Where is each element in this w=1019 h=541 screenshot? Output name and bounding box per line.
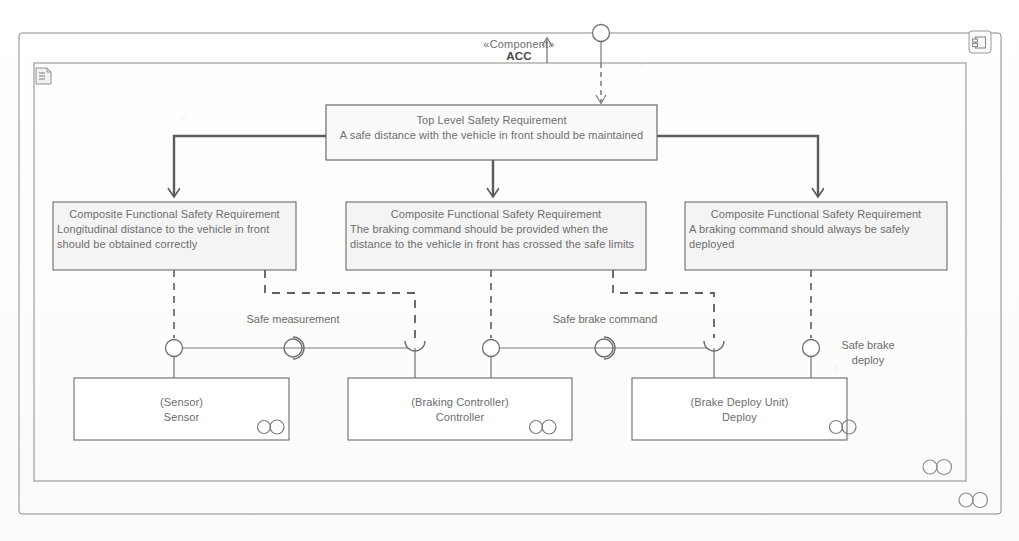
composite-requirement-1-line2: should be obtained correctly (57, 237, 292, 252)
composite-requirement-2-title: Composite Functional Safety Requirement (350, 207, 642, 222)
port-controller-required[interactable] (405, 341, 425, 378)
assembly-connector-safe-measurement (182, 337, 408, 359)
composite-requirement-3-title: Composite Functional Safety Requirement (689, 207, 943, 222)
part-controller-type: (Braking Controller) (348, 395, 572, 410)
component-icon-inner-bottom (923, 460, 952, 475)
composite-requirement-3-line1: A braking command should always be safel… (689, 222, 943, 237)
part-deploy-text: (Brake Deploy Unit) Deploy (632, 395, 847, 425)
derive-arrow-left (174, 136, 326, 196)
port-controller-provided[interactable] (483, 340, 500, 379)
diagram-vector-layer (0, 0, 1019, 541)
part-deploy-name: Deploy (632, 410, 847, 425)
interface-label-safe-brake-command: Safe brake command (525, 313, 685, 325)
top-requirement-body: A safe distance with the vehicle in fron… (326, 128, 657, 143)
part-sensor-text: (Sensor) Sensor (74, 395, 289, 425)
note-icon-inner-frame (36, 68, 51, 84)
trace-link-composite1-controller (265, 270, 415, 338)
composite-requirement-1-line1: Longitudinal distance to the vehicle in … (57, 222, 292, 237)
part-sensor-type: (Sensor) (74, 395, 289, 410)
composite-requirement-3-line2: deployed (689, 237, 943, 252)
component-icon-outer-bottom (959, 493, 988, 508)
top-requirement-text: Top Level Safety Requirement A safe dist… (326, 113, 657, 143)
derive-arrow-right (657, 136, 818, 196)
port-sensor-provided[interactable] (166, 340, 183, 379)
interface-label-safe-brake-deploy: Safe brake deploy (823, 338, 913, 368)
acc-provided-interface-port[interactable] (593, 25, 610, 64)
part-controller-name: Controller (348, 410, 572, 425)
safe-brake-deploy-line1: Safe brake (823, 338, 913, 353)
safe-brake-deploy-line2: deploy (823, 353, 913, 368)
composite-requirement-2-text: Composite Functional Safety Requirement … (350, 207, 642, 252)
diagram-canvas: «Component» ACC Top Level Safety Require… (0, 0, 1019, 541)
composite-requirement-2-line2: distance to the vehicle in front has cro… (350, 237, 642, 252)
part-deploy-type: (Brake Deploy Unit) (632, 395, 847, 410)
interface-label-safe-measurement: Safe measurement (213, 313, 373, 325)
composite-requirement-1-text: Composite Functional Safety Requirement … (57, 207, 292, 252)
trace-link-composite2-deploy (613, 270, 714, 338)
assembly-connector-safe-brake-command (499, 337, 707, 359)
part-controller-text: (Braking Controller) Controller (348, 395, 572, 425)
part-sensor-name: Sensor (74, 410, 289, 425)
composite-requirement-3-text: Composite Functional Safety Requirement … (689, 207, 943, 252)
component-icon-outer-frame (969, 31, 991, 53)
composite-requirement-1-title: Composite Functional Safety Requirement (57, 207, 292, 222)
top-requirement-title: Top Level Safety Requirement (326, 113, 657, 128)
composite-requirement-2-line1: The braking command should be provided w… (350, 222, 642, 237)
port-deploy-provided[interactable] (803, 340, 820, 379)
port-deploy-required[interactable] (704, 341, 724, 378)
